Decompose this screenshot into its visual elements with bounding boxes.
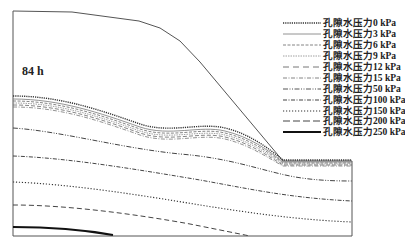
- line-sample-icon: [283, 107, 321, 115]
- line-sample-icon: [283, 96, 321, 104]
- line-sample-icon: [283, 74, 321, 82]
- legend-item: 孔隙水压力200 kPa: [283, 116, 405, 127]
- legend-item: 孔隙水压力3 kPa: [283, 29, 405, 40]
- contour-150kpa: [13, 182, 352, 222]
- line-sample-icon: [283, 85, 321, 93]
- contour-250kpa: [13, 227, 113, 235]
- line-sample-icon: [283, 41, 321, 49]
- line-sample-icon: [283, 30, 321, 38]
- legend: 孔隙水压力0 kPa 孔隙水压力3 kPa 孔隙水压力6 kPa 孔隙水压力9 …: [283, 18, 405, 138]
- legend-item: 孔隙水压力150 kPa: [283, 105, 405, 116]
- legend-item: 孔隙水压力9 kPa: [283, 51, 405, 62]
- line-sample-icon: [283, 52, 321, 60]
- legend-item: 孔隙水压力0 kPa: [283, 18, 405, 29]
- line-sample-icon: [283, 128, 321, 136]
- line-sample-icon: [283, 19, 321, 27]
- contour-100kpa: [13, 156, 352, 201]
- legend-item: 孔隙水压力100 kPa: [283, 94, 405, 105]
- legend-item: 孔隙水压力12 kPa: [283, 62, 405, 73]
- time-label: 84 h: [22, 64, 44, 79]
- contour-200kpa: [13, 205, 250, 236]
- legend-item: 孔隙水压力250 kPa: [283, 127, 405, 138]
- line-sample-icon: [283, 63, 321, 71]
- line-sample-icon: [283, 117, 321, 125]
- legend-item: 孔隙水压力50 kPa: [283, 83, 405, 94]
- legend-item: 孔隙水压力6 kPa: [283, 40, 405, 51]
- legend-item: 孔隙水压力15 kPa: [283, 72, 405, 83]
